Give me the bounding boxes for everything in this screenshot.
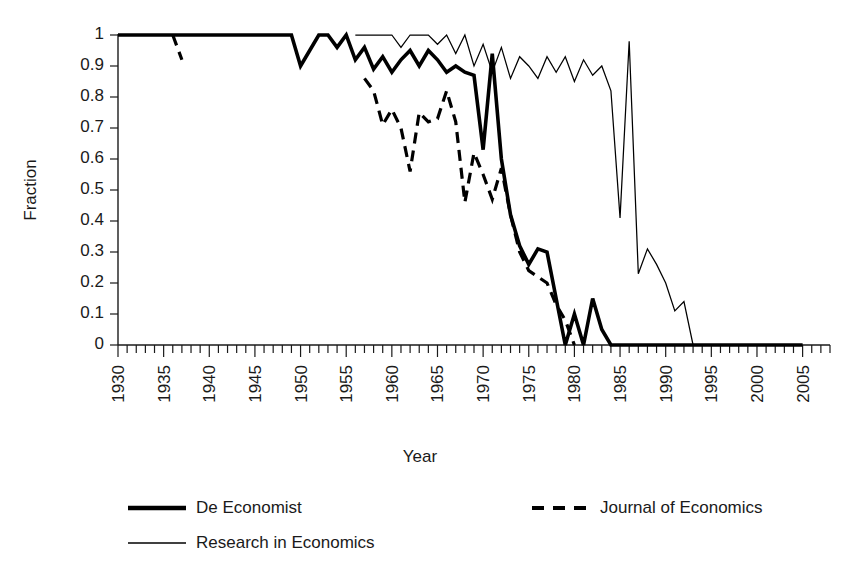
- series-line-research-in-economics: [355, 35, 693, 345]
- x-axis-tick-label: 1945: [246, 365, 265, 403]
- y-axis-tick-label: 0.1: [80, 303, 104, 322]
- y-axis-tick-label: 0.3: [80, 241, 104, 260]
- x-axis-tick-label: 1985: [611, 365, 630, 403]
- y-axis-tick-label: 0.8: [80, 86, 104, 105]
- legend-item-journal-of-economics[interactable]: Journal of Economics: [532, 498, 763, 517]
- x-axis-tick-label: 1960: [383, 365, 402, 403]
- series-line-de-economist: [118, 35, 803, 345]
- data-series-group: [118, 35, 803, 345]
- chart-legend: De EconomistJournal of EconomicsResearch…: [128, 498, 763, 552]
- chart-figure: 00.10.20.30.40.50.60.70.80.91 1930193519…: [0, 0, 854, 579]
- x-axis-tick-label: 1980: [565, 365, 584, 403]
- y-axis: 00.10.20.30.40.50.60.70.80.91: [80, 24, 118, 353]
- legend-item-label: Research in Economics: [196, 533, 375, 552]
- y-axis-tick-label: 0.4: [80, 210, 104, 229]
- x-axis-tick-label: 1970: [474, 365, 493, 403]
- y-axis-tick-label: 0.2: [80, 272, 104, 291]
- chart-svg: 00.10.20.30.40.50.60.70.80.91 1930193519…: [0, 0, 854, 579]
- x-axis-tick-label: 1940: [200, 365, 219, 403]
- x-axis-tick-label: 1990: [657, 365, 676, 403]
- y-axis-tick-label: 0.7: [80, 117, 104, 136]
- x-axis-tick-label: 1930: [109, 365, 128, 403]
- legend-item-label: De Economist: [196, 498, 302, 517]
- x-axis-tick-label: 2005: [794, 365, 813, 403]
- y-axis-tick-label: 0: [95, 334, 104, 353]
- x-axis-tick-label: 2000: [748, 365, 767, 403]
- x-axis: 1930193519401945195019551960196519701975…: [109, 345, 830, 403]
- x-axis-tick-label: 1995: [702, 365, 721, 403]
- legend-item-de-economist[interactable]: De Economist: [128, 498, 302, 517]
- y-axis-tick-label: 0.9: [80, 55, 104, 74]
- x-axis-tick-label: 1955: [337, 365, 356, 403]
- series-line-journal-of-economics: [364, 78, 574, 345]
- series-line-journal-of-economics: [173, 35, 182, 60]
- legend-item-label: Journal of Economics: [600, 498, 763, 517]
- x-axis-tick-label: 1975: [520, 365, 539, 403]
- x-axis-tick-label: 1950: [292, 365, 311, 403]
- y-axis-title: Fraction: [21, 159, 40, 220]
- y-axis-tick-label: 1: [95, 24, 104, 43]
- x-axis-title: Year: [403, 447, 438, 466]
- x-axis-tick-label: 1935: [155, 365, 174, 403]
- legend-item-research-in-economics[interactable]: Research in Economics: [128, 533, 375, 552]
- x-axis-tick-label: 1965: [428, 365, 447, 403]
- y-axis-tick-label: 0.5: [80, 179, 104, 198]
- y-axis-tick-label: 0.6: [80, 148, 104, 167]
